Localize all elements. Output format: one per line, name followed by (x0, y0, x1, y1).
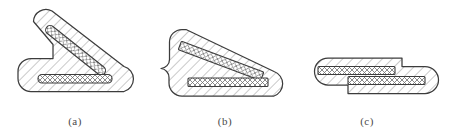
lower-horizontal-slot (348, 77, 425, 85)
upper-horizontal-slot-shape (318, 67, 395, 75)
figure-container: (a) (b) (c) (0, 0, 453, 131)
lower-horizontal-slot (38, 75, 112, 84)
lower-horizontal-slot-shape (188, 78, 268, 87)
lower-horizontal-slot-shape (38, 75, 112, 84)
lower-horizontal-slot (188, 78, 268, 87)
panel-caption-a: (a) (0, 115, 150, 127)
figure-panel-b (150, 0, 300, 110)
panel-caption-b: (b) (150, 115, 300, 127)
panel-caption-c: (c) (292, 115, 442, 127)
lower-horizontal-slot-shape (348, 77, 425, 85)
closed-stacked-body (315, 58, 439, 94)
figure-panel-c (292, 0, 453, 110)
body-outline-c (315, 58, 439, 94)
upper-horizontal-slot (318, 67, 395, 75)
figure-panel-a (0, 0, 150, 110)
